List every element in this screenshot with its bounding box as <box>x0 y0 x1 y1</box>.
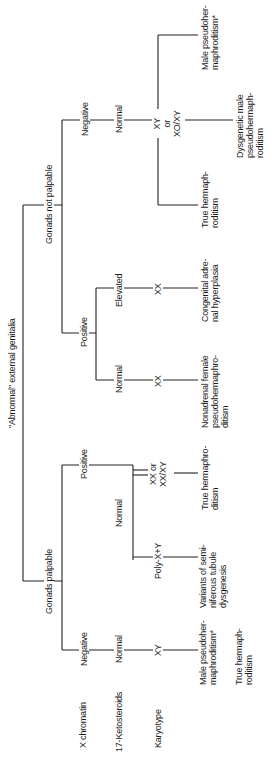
row-header-x-chromatin: X chromatin <box>78 702 88 748</box>
outcome-dysgenetic-male-pseudohermaphroditism: Dysgenetic male pseudohermaph- roditism <box>235 93 265 158</box>
row-header-ketosteroids: 17-Ketosteroids <box>114 692 124 752</box>
connector-lines <box>0 0 273 771</box>
gp-karyotype-xy: XY <box>153 643 163 657</box>
gp-ketosteroids-normal-negative: Normal <box>114 634 124 664</box>
outcome-male-pseudohermaphroditism-gp: Male pseudoher- maphroditism* <box>198 620 218 685</box>
outcome-true-hermaphroditism-gp-negative: True hermaph- roditism <box>234 628 254 685</box>
outcome-true-hermaphroditism-gp-positive: True hermaphro- ditism <box>200 446 220 510</box>
root-label: "Abnormal" external genitalia <box>7 318 17 428</box>
gp-karyotype-poly-x-y: Poly-X+Y <box>153 542 163 580</box>
gnp-karyotype-xx-elevated: XX <box>153 282 163 296</box>
outcome-seminiferous-tubule-dysgenesis: Variants of semi- niferous tubule dysgen… <box>198 545 228 608</box>
outcome-congenital-adrenal-hyperplasia: Congenital adre- nal hyperplasia <box>200 259 220 322</box>
gnp-ketosteroids-normal: Normal <box>114 104 124 134</box>
gp-x-chromatin-negative: Negative <box>79 631 89 667</box>
gnp-x-chromatin-positive: Positive <box>79 316 89 348</box>
gp-karyotype-xx-or-xxxy: XX or XX/XY <box>148 460 168 488</box>
gnp-ketosteroids-normal-positive: Normal <box>114 364 124 394</box>
gonads-not-palpable-label: Gonads not palpable <box>44 164 54 245</box>
outcome-male-pseudohermaphroditism-top: Male pseudoher- maphroditism* <box>200 5 220 70</box>
gonads-palpable-label: Gonads palpable <box>44 548 54 615</box>
gnp-karyotype-xx-normal: XX <box>153 374 163 388</box>
gnp-karyotype-xy-or-xoxy: XY or XO/XY <box>152 109 182 138</box>
outcome-true-hermaphroditism-gnp: True hermaph- roditism <box>200 171 220 228</box>
row-header-karyotype: Karyotype <box>153 709 163 748</box>
gp-ketosteroids-normal-positive: Normal <box>114 498 124 528</box>
gp-x-chromatin-positive: Positive <box>79 448 89 480</box>
gnp-x-chromatin-negative: Negative <box>80 101 90 137</box>
outcome-nonadrenal-female-pseudohermaphroditism: Nonadrenal female pseudohermaphro- ditis… <box>200 355 230 428</box>
gnp-ketosteroids-elevated: Elevated <box>114 273 124 308</box>
